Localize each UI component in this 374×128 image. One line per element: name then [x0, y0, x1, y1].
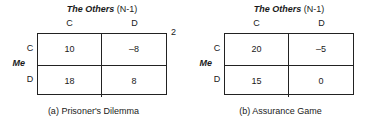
- payoff-cell-dc: 15: [225, 66, 289, 97]
- panel-caption: (a) Prisoner's Dilemma: [0, 105, 187, 117]
- column-axis-title: The Others (N-1): [37, 4, 167, 15]
- game-matrices-figure: The Others (N-1) C D Me C D 10 –8 18 8 2…: [0, 0, 374, 128]
- column-axis-title-strong: The Others: [254, 4, 302, 14]
- panel-assurance-game: The Others (N-1) C D Me C D 20 –5 15 0 (…: [187, 0, 374, 128]
- panel-caption: (b) Assurance Game: [187, 105, 374, 117]
- payoff-matrix: 20 –5 15 0: [224, 33, 354, 95]
- column-axis-title-strong: The Others: [67, 4, 115, 14]
- payoff-cell-cc: 10: [38, 34, 102, 65]
- column-headers: C D: [37, 17, 167, 29]
- column-axis-title-plain: (N-1): [114, 4, 137, 14]
- corner-annotation: 2: [171, 27, 176, 38]
- table-row: 20 –5: [225, 34, 353, 66]
- payoff-cell-dc: 18: [38, 66, 102, 97]
- payoff-cell-dd: 0: [289, 66, 353, 97]
- panel-prisoners-dilemma: The Others (N-1) C D Me C D 10 –8 18 8 2…: [0, 0, 187, 128]
- row-header-c: C: [212, 43, 222, 54]
- column-header-d: D: [102, 17, 167, 29]
- column-header-c: C: [37, 17, 102, 29]
- column-axis-title: The Others (N-1): [224, 4, 354, 15]
- row-header-d: D: [212, 74, 222, 85]
- payoff-cell-cd: –5: [289, 34, 353, 65]
- row-header-d: D: [25, 74, 35, 85]
- table-row: 10 –8: [38, 34, 166, 66]
- table-row: 15 0: [225, 66, 353, 97]
- column-header-d: D: [289, 17, 354, 29]
- column-axis-title-plain: (N-1): [301, 4, 324, 14]
- payoff-cell-dd: 8: [102, 66, 166, 97]
- row-header-c: C: [25, 43, 35, 54]
- row-axis-title: Me: [190, 58, 212, 69]
- column-headers: C D: [224, 17, 354, 29]
- payoff-cell-cc: 20: [225, 34, 289, 65]
- payoff-cell-cd: –8: [102, 34, 166, 65]
- row-axis-title: Me: [3, 58, 25, 69]
- payoff-matrix: 10 –8 18 8: [37, 33, 167, 95]
- table-row: 18 8: [38, 66, 166, 97]
- column-header-c: C: [224, 17, 289, 29]
